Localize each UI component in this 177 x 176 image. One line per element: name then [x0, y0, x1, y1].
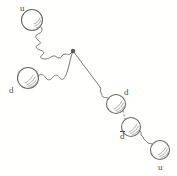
- gluon-u-to-vertex: [36, 27, 73, 59]
- propagator-kink-wave: [100, 87, 108, 98]
- label-d-left: d: [9, 86, 14, 95]
- label-dbar-lower: d: [120, 131, 125, 141]
- gluon-dbar-to-u: [140, 131, 152, 144]
- label-d-middle: d: [124, 88, 129, 97]
- interaction-vertex: [71, 49, 75, 53]
- propagator-vertex-to-d: [73, 51, 100, 87]
- gluon-d-to-vertex: [38, 51, 73, 80]
- diagram-canvas: u d d d u: [0, 0, 177, 176]
- label-u-bottom-right: u: [158, 163, 163, 172]
- hatch-dbar-lower: [129, 124, 140, 136]
- particle-d-left: [18, 68, 39, 89]
- dotted-d-to-dbar: [123, 111, 125, 119]
- hatch-u-bottom-right: [158, 147, 169, 159]
- diagram-svg: [0, 0, 177, 176]
- label-u-top-left: u: [20, 4, 25, 13]
